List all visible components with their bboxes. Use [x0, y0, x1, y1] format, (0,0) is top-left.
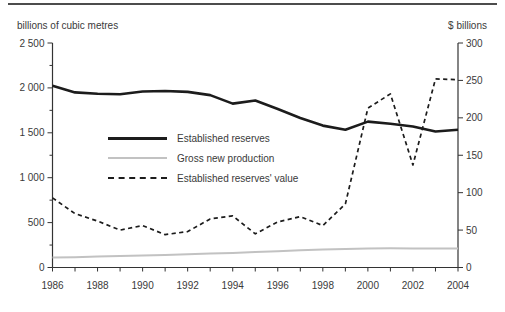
right-axis-tick-label: 200: [466, 112, 483, 123]
legend-item-established-reserves: Established reserves: [108, 131, 298, 145]
established-reserves-line-swatch: [108, 137, 167, 140]
legend-label-established-reserves-value: Established reserves' value: [177, 173, 298, 184]
left-axis-tick-label: 0: [39, 262, 45, 273]
right-axis-tick-label: 50: [466, 225, 478, 236]
legend-label-gross-new-production: Gross new production: [177, 153, 274, 164]
x-axis-tick-label: 1998: [312, 280, 335, 291]
established-reserves-line: [53, 86, 459, 132]
right-axis-tick-label: 0: [466, 262, 472, 273]
gross-new-production-line: [53, 248, 459, 257]
left-axis-tick-label: 1 500: [19, 127, 44, 138]
x-axis-tick-label: 1988: [86, 280, 109, 291]
legend: Established reserves Gross new productio…: [108, 131, 298, 191]
x-axis-tick-label: 1990: [131, 280, 154, 291]
gross-new-production-line-swatch: [108, 157, 167, 159]
chart-figure: billions of cubic metres $ billions 2 50…: [0, 0, 505, 312]
established-reserves-value-line-swatch: [108, 177, 167, 179]
x-axis-tick-label: 2004: [447, 280, 470, 291]
left-axis-tick-label: 2 000: [19, 82, 44, 93]
x-axis-tick-label: 1994: [222, 280, 245, 291]
x-axis-tick-label: 1996: [267, 280, 290, 291]
legend-item-gross-new-production: Gross new production: [108, 151, 298, 165]
x-axis-tick-label: 1986: [41, 280, 64, 291]
right-axis-tick-label: 300: [466, 38, 483, 49]
x-axis-tick-label: 1992: [177, 280, 200, 291]
legend-item-established-reserves-value: Established reserves' value: [108, 171, 298, 185]
left-axis-tick-label: 500: [28, 217, 45, 228]
left-axis-tick-label: 1 000: [19, 172, 44, 183]
left-axis-tick-label: 2 500: [19, 38, 44, 49]
right-axis-tick-label: 100: [466, 187, 483, 198]
legend-label-established-reserves: Established reserves: [177, 133, 270, 144]
x-axis-tick-label: 2000: [357, 280, 380, 291]
x-axis-tick-label: 2002: [402, 280, 425, 291]
right-axis-tick-label: 150: [466, 150, 483, 161]
right-axis-tick-label: 250: [466, 75, 483, 86]
